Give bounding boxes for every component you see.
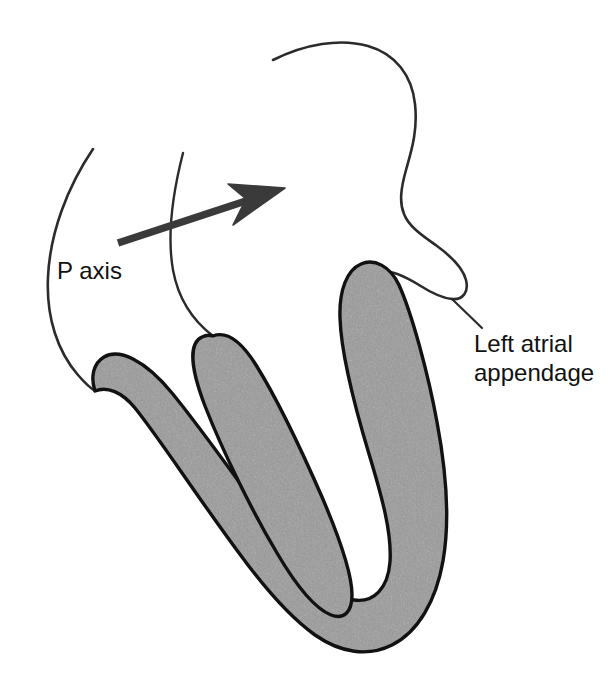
interatrial-septum-outline — [170, 153, 213, 336]
left-atrial-appendage-label-line1: Left atrial — [474, 330, 573, 357]
left-atrial-appendage-label: Left atrialappendage — [474, 329, 594, 387]
heart-diagram-figure: P axis Left atrialappendage — [0, 0, 612, 696]
p-axis-label: P axis — [57, 256, 122, 285]
p-axis-vector-arrow — [118, 184, 285, 243]
left-atrial-appendage-leader-line — [452, 299, 482, 328]
left-atrial-appendage-label-line2: appendage — [474, 359, 594, 386]
